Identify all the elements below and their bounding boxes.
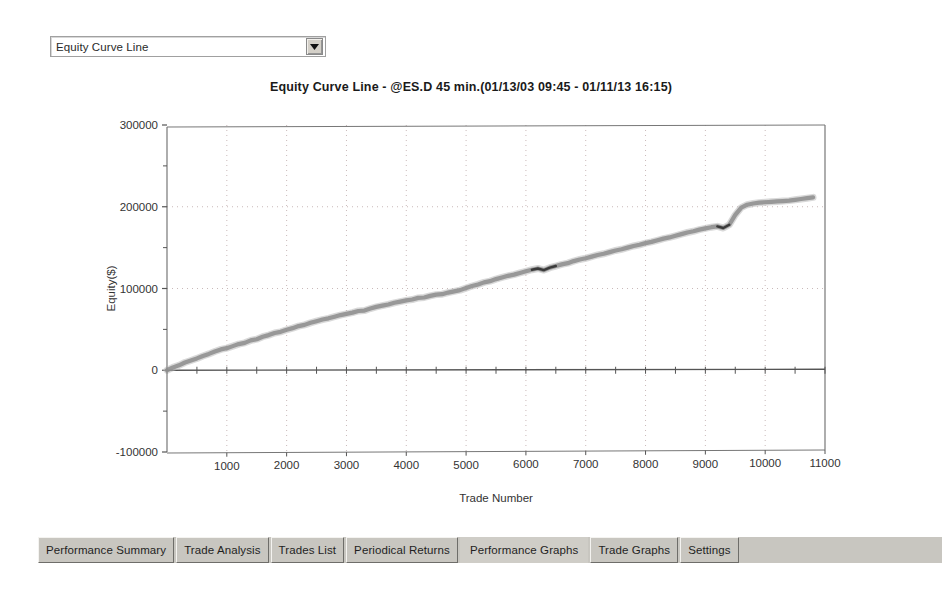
x-axis-label: Trade Number bbox=[459, 492, 533, 504]
x-axis-tick-label: 11000 bbox=[809, 457, 840, 469]
tab-label: Periodical Returns bbox=[354, 544, 450, 556]
y-axis-tick-label: -100000 bbox=[116, 446, 158, 458]
tab-label: Trades List bbox=[279, 544, 337, 556]
x-axis-tick-label: 1000 bbox=[214, 460, 240, 472]
tab-label: Trade Graphs bbox=[598, 544, 670, 556]
tab-performance-summary[interactable]: Performance Summary bbox=[38, 537, 174, 563]
x-axis-tick-label: 9000 bbox=[693, 458, 719, 470]
x-axis-tick-label: 4000 bbox=[393, 459, 419, 471]
app-root: Equity Curve Line Equity Curve Line - @E… bbox=[0, 0, 942, 602]
x-axis-tick-label: 2000 bbox=[274, 459, 300, 471]
x-axis-tick-label: 7000 bbox=[573, 458, 599, 470]
y-axis-tick-label: 300000 bbox=[120, 119, 158, 131]
equity-curve-halo bbox=[167, 197, 813, 370]
x-axis-tick-label: 5000 bbox=[453, 459, 479, 471]
graph-type-selected-value: Equity Curve Line bbox=[51, 41, 306, 53]
x-axis-tick-label: 3000 bbox=[334, 459, 360, 471]
equity-curve-chart: -100000010000020000030000010002000300040… bbox=[60, 110, 850, 510]
y-axis-tick-label: 100000 bbox=[120, 283, 158, 295]
plot-frame-top bbox=[167, 125, 825, 127]
tab-label: Performance Summary bbox=[46, 544, 166, 556]
tab-label: Settings bbox=[688, 544, 730, 556]
x-axis-tick-label: 8000 bbox=[633, 458, 659, 470]
chevron-down-icon[interactable] bbox=[306, 38, 323, 55]
chart-title: Equity Curve Line - @ES.D 45 min.(01/13/… bbox=[0, 80, 942, 94]
y-axis-tick-label: 200000 bbox=[120, 201, 158, 213]
y-axis-label: Equity($) bbox=[105, 265, 117, 311]
tab-label: Trade Analysis bbox=[184, 544, 260, 556]
tab-trade-graphs[interactable]: Trade Graphs bbox=[590, 537, 678, 563]
chart-svg: -100000010000020000030000010002000300040… bbox=[60, 110, 850, 510]
tab-strip: Performance SummaryTrade AnalysisTrades … bbox=[38, 537, 942, 563]
tab-label: Performance Graphs bbox=[470, 544, 579, 556]
tab-trades-list[interactable]: Trades List bbox=[271, 537, 345, 563]
plot-frame-bottom bbox=[167, 450, 825, 453]
x-axis-tick-label: 6000 bbox=[513, 458, 539, 470]
y-axis-tick-label: 0 bbox=[152, 364, 158, 376]
graph-type-dropdown[interactable]: Equity Curve Line bbox=[50, 36, 326, 57]
x-axis-tick-label: 10000 bbox=[749, 457, 781, 469]
tab-trade-analysis[interactable]: Trade Analysis bbox=[176, 537, 268, 563]
tab-settings[interactable]: Settings bbox=[680, 537, 738, 563]
tab-periodical-returns[interactable]: Periodical Returns bbox=[346, 537, 458, 563]
tab-strip-filler bbox=[741, 537, 942, 563]
tab-performance-graphs[interactable]: Performance Graphs bbox=[460, 537, 589, 563]
